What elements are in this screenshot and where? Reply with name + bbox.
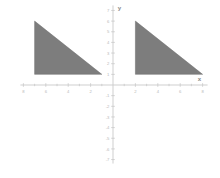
y-tick-label: -7 bbox=[106, 157, 110, 162]
x-tick-label: 8 bbox=[201, 89, 204, 94]
x-tick-label: 2 bbox=[134, 89, 137, 94]
y-tick-label: 6 bbox=[107, 19, 110, 24]
y-tick-label: -1 bbox=[106, 93, 110, 98]
y-tick-label: -4 bbox=[106, 125, 110, 130]
y-tick-label: 5 bbox=[107, 29, 110, 34]
shapes-group bbox=[35, 21, 203, 74]
y-tick-label: 3 bbox=[107, 51, 110, 56]
plot-canvas: 864224687654321-1-2-3-4-5-6-7 x y bbox=[0, 0, 220, 178]
x-tick-label: 4 bbox=[67, 89, 70, 94]
x-tick-label: 6 bbox=[45, 89, 48, 94]
axes-group bbox=[20, 5, 207, 163]
x-tick-label: 4 bbox=[157, 89, 160, 94]
x-tick-label: 8 bbox=[22, 89, 25, 94]
y-tick-label: -5 bbox=[106, 136, 110, 141]
left-triangle bbox=[35, 21, 102, 74]
y-tick-label: 7 bbox=[107, 8, 110, 13]
x-axis-label: x bbox=[198, 75, 202, 82]
y-tick-label: -3 bbox=[106, 115, 110, 120]
x-tick-label: 2 bbox=[89, 89, 92, 94]
coordinate-plane-figure: 864224687654321-1-2-3-4-5-6-7 x y bbox=[0, 0, 220, 178]
y-tick-label: -6 bbox=[106, 147, 110, 152]
y-tick-label: 2 bbox=[107, 61, 110, 66]
right-triangle bbox=[135, 21, 202, 74]
y-axis-label: y bbox=[118, 4, 122, 11]
y-tick-label: -2 bbox=[106, 104, 110, 109]
x-tick-label: 6 bbox=[179, 89, 182, 94]
y-tick-label: 4 bbox=[107, 40, 110, 45]
y-tick-label: 1 bbox=[107, 72, 110, 77]
